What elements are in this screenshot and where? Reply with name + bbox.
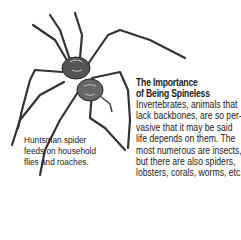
caption-line: Huntsman spider bbox=[24, 134, 96, 145]
caption-line: feeds on household bbox=[24, 145, 96, 156]
title-line: The Importance bbox=[136, 77, 210, 88]
body-line: vasive that it may be said bbox=[136, 122, 241, 133]
body-line: Invertebrates, animals that bbox=[136, 99, 241, 110]
body-line: life depends on them. The bbox=[136, 133, 241, 144]
article-body: Invertebrates, animals that lack backbon… bbox=[136, 99, 241, 179]
caption-line: flies and roaches. bbox=[24, 156, 96, 167]
title-line: of Being Spineless bbox=[136, 88, 210, 99]
body-line: most numerous are insects, bbox=[136, 145, 241, 156]
image-caption: Huntsman spider feeds on household flies… bbox=[24, 134, 96, 168]
article-title: The Importance of Being Spineless bbox=[136, 77, 210, 99]
body-line: lack backbones, are so per- bbox=[136, 110, 241, 121]
body-line: lobsters, corals, worms, etc. bbox=[136, 167, 241, 178]
body-line: but there are also spiders, bbox=[136, 156, 241, 167]
